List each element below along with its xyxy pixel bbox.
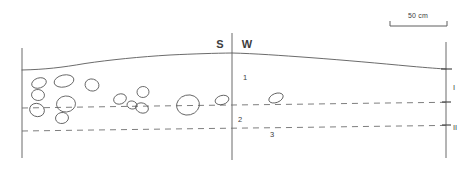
layer-label-3: 3: [270, 130, 274, 139]
vertical-axes: [22, 33, 446, 160]
clast: [31, 89, 45, 102]
stratigraphic-section-figure: 50 cm S W: [0, 0, 473, 171]
scale-bar-label: 50 cm: [408, 12, 428, 19]
clast: [214, 94, 230, 107]
compass-label-s: S: [216, 38, 224, 50]
layer-label-1: 1: [243, 73, 247, 82]
clast: [136, 86, 149, 99]
horizon-label-ii: II: [453, 123, 457, 132]
clast: [55, 111, 70, 124]
layer-number-labels: 1 2 3: [238, 73, 274, 139]
clast: [30, 76, 47, 90]
clast: [84, 77, 101, 92]
ground-surface-line: [22, 53, 446, 70]
layer-label-2: 2: [238, 115, 242, 124]
scale-bar: 50 cm: [390, 12, 447, 26]
compass-label-w: W: [242, 38, 253, 50]
section-drawing-canvas: 50 cm S W: [0, 0, 473, 171]
clast: [56, 95, 76, 113]
clast: [112, 92, 128, 106]
clast: [267, 91, 284, 105]
horizon-labels: I II: [453, 83, 457, 132]
clast: [174, 93, 201, 118]
layer-boundary-2-line: [22, 125, 446, 131]
layer-boundary-1-line: [22, 102, 446, 108]
scale-bar-rule: [390, 21, 447, 26]
horizon-label-i: I: [453, 83, 455, 92]
clast: [28, 101, 47, 119]
clast: [53, 73, 75, 89]
compass-labels: S W: [216, 38, 252, 50]
